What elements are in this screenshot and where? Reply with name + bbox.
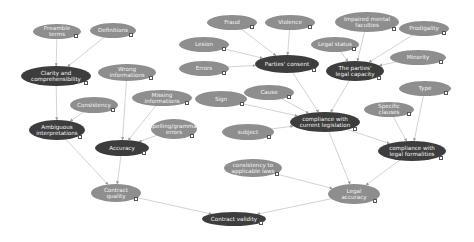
node-label: The parties' legal capacity — [332, 65, 378, 78]
expand-icon[interactable] — [444, 91, 448, 95]
node-legal-status[interactable]: Legal status — [311, 37, 359, 52]
expand-icon[interactable] — [439, 156, 443, 160]
node-impaired[interactable]: Impaired mental faculties — [335, 12, 399, 32]
node-minority[interactable]: Minority — [390, 50, 446, 65]
node-consistency-laws[interactable]: consistency to applicable laws — [224, 159, 282, 177]
node-sign[interactable]: Sign — [195, 91, 247, 107]
node-clarity[interactable]: Clarity and comprehensibility — [21, 66, 91, 86]
expand-icon[interactable] — [259, 221, 263, 225]
expand-icon[interactable] — [74, 34, 78, 38]
node-legal-capacity[interactable]: The parties' legal capacity — [326, 61, 384, 81]
node-label: compliance with legal formalities — [384, 145, 440, 158]
expand-icon[interactable] — [407, 112, 411, 116]
node-accuracy[interactable]: Accuracy — [95, 140, 149, 156]
expand-icon[interactable] — [267, 135, 271, 139]
edge-type-to-compliance_formalities — [414, 88, 425, 141]
node-fraud[interactable]: Fraud — [207, 15, 257, 30]
node-label: Parties' consent — [265, 61, 309, 67]
node-specific-clauses[interactable]: Specific clauses — [364, 102, 414, 117]
expand-icon[interactable] — [373, 199, 377, 203]
node-label: Accuracy — [109, 145, 135, 151]
node-contract-validity[interactable]: Contract validity — [202, 212, 266, 226]
node-definitions[interactable]: Definitions — [90, 23, 136, 38]
node-label: Impaired mental faculties — [341, 16, 393, 29]
node-cause[interactable]: Cause — [244, 85, 294, 100]
node-label: Minority — [407, 54, 430, 60]
node-preamble[interactable]: Preamble terms — [33, 24, 81, 39]
node-label: Preamble terms — [39, 25, 75, 38]
node-compliance-formalities[interactable]: compliance with legal formalities — [378, 141, 446, 161]
expand-icon[interactable] — [222, 71, 226, 75]
expand-icon[interactable] — [185, 101, 189, 105]
node-label: Legal accuracy — [334, 188, 374, 201]
node-label: Contract validity — [211, 216, 257, 222]
node-label: Contract quality — [97, 187, 135, 200]
node-missing-info[interactable]: Missing informations — [132, 90, 192, 106]
node-parties-consent[interactable]: Parties' consent — [255, 55, 319, 73]
node-compliance-current[interactable]: compliance with current legislation — [290, 112, 360, 132]
expand-icon[interactable] — [129, 33, 133, 37]
node-label: consistency to applicable laws — [230, 162, 276, 175]
node-label: Wrong informations — [104, 66, 150, 79]
expand-icon[interactable] — [287, 95, 291, 99]
expand-icon[interactable] — [134, 197, 138, 201]
node-label: Definitions — [98, 27, 128, 33]
expand-icon[interactable] — [250, 25, 254, 29]
node-subject[interactable]: subject — [222, 124, 274, 140]
expand-icon[interactable] — [275, 172, 279, 176]
node-label: Ambiguous interpretations — [35, 124, 79, 137]
node-label: Consistency — [77, 102, 111, 108]
node-label: Prodigality — [409, 25, 439, 31]
node-consistency[interactable]: Consistency — [70, 97, 118, 113]
node-label: Type — [419, 85, 432, 91]
expand-icon[interactable] — [442, 31, 446, 35]
concept-map-canvas: Preamble termsDefinitionsClarity and com… — [0, 0, 474, 242]
node-label: Clarity and comprehensibility — [27, 70, 85, 83]
edge-wrong_info-to-accuracy — [123, 72, 127, 140]
expand-icon[interactable] — [308, 25, 312, 29]
expand-icon[interactable] — [111, 108, 115, 112]
node-label: Errors — [196, 65, 213, 71]
expand-icon[interactable] — [439, 60, 443, 64]
node-violence[interactable]: Violence — [265, 15, 315, 30]
expand-icon[interactable] — [142, 151, 146, 155]
node-label: Fraud — [224, 19, 240, 25]
expand-icon[interactable] — [222, 47, 226, 51]
node-label: compliance with current legislation — [296, 116, 354, 129]
node-ambiguous[interactable]: Ambiguous interpretations — [29, 120, 85, 140]
expand-icon[interactable] — [240, 102, 244, 106]
node-label: Specific clauses — [370, 103, 408, 116]
node-error[interactable]: Errors — [179, 61, 229, 76]
expand-icon[interactable] — [190, 134, 194, 138]
node-contract-quality[interactable]: Contract quality — [91, 184, 141, 202]
node-spelling[interactable]: Spelling/grammar errors — [151, 119, 197, 139]
node-label: Cause — [260, 89, 277, 95]
node-prodigality[interactable]: Prodigality — [399, 21, 449, 36]
node-label: subject — [238, 129, 258, 135]
node-wrong-info[interactable]: Wrong informations — [98, 64, 156, 81]
node-label: Missing informations — [138, 92, 186, 105]
node-label: Sign — [215, 96, 227, 102]
expand-icon[interactable] — [352, 47, 356, 51]
expand-icon[interactable] — [392, 27, 396, 31]
node-type[interactable]: Type — [399, 81, 451, 96]
node-label: Legal status — [318, 41, 352, 47]
expand-icon[interactable] — [78, 135, 82, 139]
node-legal-accuracy[interactable]: Legal accuracy — [328, 184, 380, 204]
node-lesion[interactable]: Lesion — [179, 37, 229, 52]
node-label: Violence — [278, 19, 302, 25]
expand-icon[interactable] — [312, 68, 316, 72]
expand-icon[interactable] — [353, 127, 357, 131]
expand-icon[interactable] — [149, 76, 153, 80]
node-label: Lesion — [195, 41, 213, 47]
expand-icon[interactable] — [84, 81, 88, 85]
expand-icon[interactable] — [377, 76, 381, 80]
